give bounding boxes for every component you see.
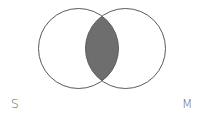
label-s: S [11, 97, 19, 111]
label-m: M [182, 97, 192, 111]
venn-diagram: S M [0, 0, 201, 114]
venn-svg: S M [0, 0, 201, 114]
